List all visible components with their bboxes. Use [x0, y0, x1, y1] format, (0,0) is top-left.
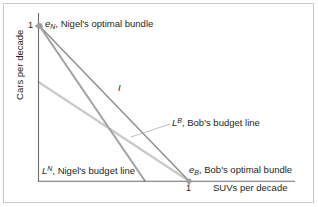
lb-label-text: Bob's budget line — [187, 117, 260, 128]
figure-root: Cars per decade SUVs per decade 1 1 eN, … — [0, 0, 318, 207]
indifference-curve-I — [40, 26, 190, 181]
plot-canvas — [0, 0, 318, 207]
eb-label-text: Bob's optimal bundle — [204, 164, 292, 175]
x-tick-label-1: 1 — [186, 184, 191, 193]
en-separator: , — [55, 18, 58, 29]
eb-symbol-sub: B — [194, 169, 199, 176]
annotation-eb: eB, Bob's optimal bundle — [189, 165, 292, 175]
annotation-ln: LN, Nigel's budget line — [42, 166, 135, 176]
annotation-indifference-curve: I — [118, 83, 121, 93]
ln-symbol-sup: N — [47, 165, 52, 172]
annotation-en: eN, Nigel's optimal bundle — [45, 19, 153, 29]
en-label-text: Nigel's optimal bundle — [61, 18, 154, 29]
lb-symbol-sup: B — [177, 117, 182, 124]
nigels-budget-line — [40, 26, 146, 181]
point-marker-en — [36, 23, 42, 29]
ln-separator: , — [52, 165, 55, 176]
y-axis-title: Cars per decade — [15, 15, 25, 115]
ln-label-text: Nigel's budget line — [58, 165, 135, 176]
y-tick-label-1: 1 — [28, 21, 33, 30]
annotation-lb: LB, Bob's budget line — [172, 118, 260, 128]
x-axis-title: SUVs per decade — [213, 183, 287, 193]
lb-separator: , — [182, 117, 185, 128]
en-symbol-sub: N — [50, 23, 55, 30]
eb-separator: , — [199, 164, 202, 175]
